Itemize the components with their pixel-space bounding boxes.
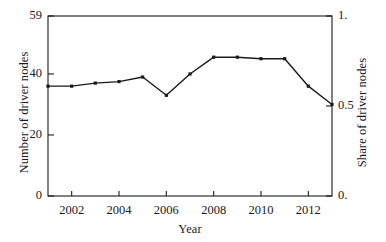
data-line bbox=[48, 57, 332, 104]
data-point-2008 bbox=[212, 56, 215, 59]
data-point-2013 bbox=[330, 103, 333, 106]
chart-figure: Number of driver nodes Share of driver n… bbox=[0, 0, 386, 242]
data-markers bbox=[46, 56, 333, 106]
data-point-2006 bbox=[165, 94, 168, 97]
data-point-2011 bbox=[283, 57, 286, 60]
data-point-2002 bbox=[70, 85, 73, 88]
plot-area bbox=[0, 0, 386, 242]
data-point-2005 bbox=[141, 75, 144, 78]
data-point-2001 bbox=[46, 85, 49, 88]
data-point-2010 bbox=[259, 57, 262, 60]
data-point-2007 bbox=[188, 72, 191, 75]
plot-frame bbox=[48, 16, 332, 196]
data-point-2004 bbox=[117, 80, 120, 83]
tick-marks bbox=[48, 16, 332, 196]
data-point-2012 bbox=[307, 85, 310, 88]
data-point-2003 bbox=[94, 82, 97, 85]
data-point-2009 bbox=[236, 56, 239, 59]
